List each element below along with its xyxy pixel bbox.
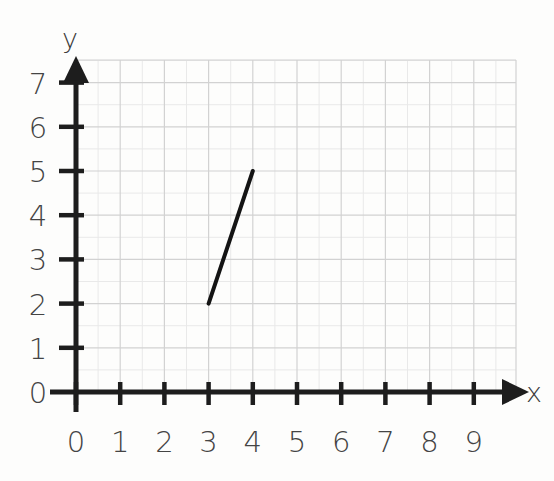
x-tick-label: 2	[155, 425, 173, 459]
x-axis-label: x	[526, 377, 542, 408]
x-tick-label: 5	[288, 425, 306, 459]
x-tick-label: 8	[420, 425, 438, 459]
y-tick-label: 5	[29, 155, 47, 189]
y-tick-label: 4	[29, 199, 47, 233]
x-tick-label: 1	[111, 425, 129, 459]
y-tick-label: 1	[29, 332, 47, 366]
x-tick-labels: 0123456789	[67, 425, 483, 459]
x-tick-label: 0	[67, 425, 85, 459]
graph-canvas: 0123456789 01234567 y x	[0, 0, 554, 481]
y-tick-labels: 01234567	[29, 67, 47, 410]
y-tick-label: 0	[29, 376, 47, 410]
y-tick-label: 7	[29, 67, 47, 101]
tick-marks	[59, 83, 474, 405]
y-tick-label: 3	[29, 243, 47, 277]
y-axis-label: y	[62, 23, 78, 54]
x-tick-label: 7	[376, 425, 394, 459]
grid-minor-lines	[76, 60, 516, 392]
y-tick-label: 6	[29, 111, 47, 145]
coordinate-plane-figure: 0123456789 01234567 y x	[0, 0, 554, 481]
x-tick-label: 6	[332, 425, 350, 459]
axis-lines	[50, 56, 529, 412]
x-tick-label: 4	[244, 425, 262, 459]
x-tick-label: 9	[465, 425, 483, 459]
x-tick-label: 3	[199, 425, 217, 459]
y-tick-label: 2	[29, 288, 47, 322]
